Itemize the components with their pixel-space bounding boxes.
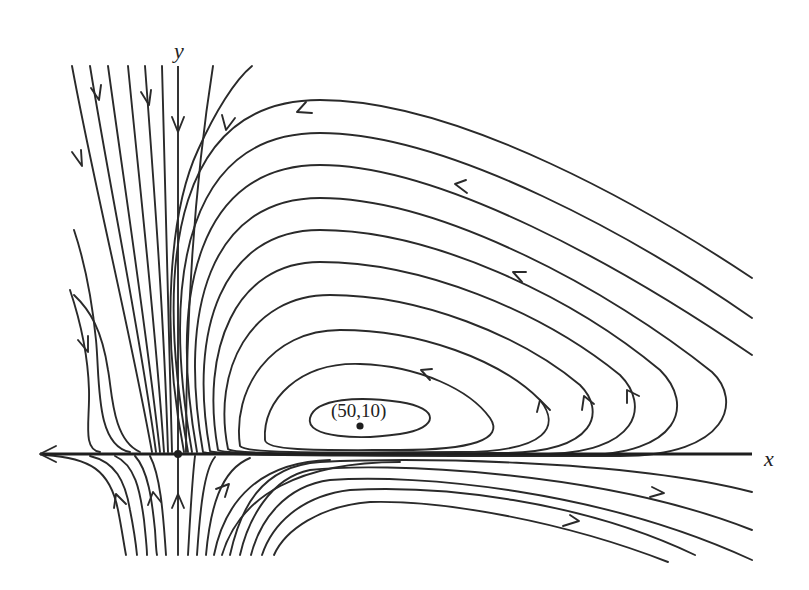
arrow-left-icon	[455, 180, 467, 193]
arrow-right-icon	[563, 515, 579, 526]
arrow-left-icon	[297, 102, 312, 113]
x-axis-label: x	[763, 446, 774, 471]
phase-portrait-diagram: y x (50,10)	[0, 0, 809, 590]
arrow-right-icon	[650, 487, 664, 497]
closed-orbits	[195, 198, 726, 456]
arrow-down-icon	[141, 90, 151, 105]
upper-left-trajectories	[70, 66, 213, 452]
lower-trajectories	[45, 455, 752, 562]
y-axis-label: y	[172, 38, 184, 63]
outer-orbits	[170, 66, 752, 452]
center-point-label: (50,10)	[331, 400, 386, 422]
arrow-down-icon	[72, 150, 82, 166]
saddle-point-origin	[174, 450, 182, 458]
arrow-up-icon	[114, 494, 126, 508]
center-point	[356, 422, 363, 429]
